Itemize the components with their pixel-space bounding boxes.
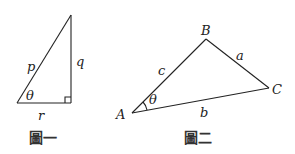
angle-arc-A	[143, 102, 147, 110]
label-theta-2: θ	[149, 92, 157, 107]
vertex-B: B	[200, 23, 211, 38]
label-c: c	[158, 63, 166, 78]
vertex-C: C	[272, 82, 282, 97]
diagram-canvas: p q r θ 圖一 B C A a b c θ 圖二	[0, 0, 295, 154]
caption-figure-2: 圖二	[184, 130, 212, 146]
label-a: a	[236, 48, 244, 63]
vertex-A: A	[115, 107, 125, 122]
label-r: r	[38, 108, 45, 123]
side-a	[206, 39, 269, 88]
label-q: q	[76, 54, 84, 69]
caption-figure-1: 圖一	[29, 130, 57, 146]
label-theta-1: θ	[26, 88, 34, 103]
label-p: p	[27, 59, 36, 74]
label-b: b	[200, 105, 208, 120]
figure-2: B C A a b c θ 圖二	[115, 23, 282, 146]
right-angle-marker	[65, 97, 71, 103]
figure-1: p q r θ 圖一	[17, 15, 84, 146]
